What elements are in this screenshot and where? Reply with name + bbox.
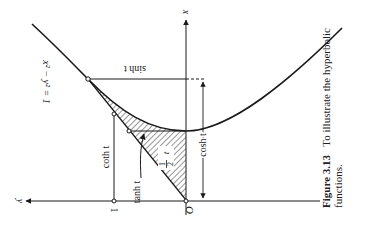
origin-point: [184, 199, 188, 203]
figure-caption: Figure 3.13 To illustrate the hyperbolic…: [320, 28, 344, 208]
coth-label: coth t: [100, 146, 111, 169]
sinh-label: sinh t: [124, 64, 146, 75]
origin-label: O: [184, 206, 196, 214]
hyperbolic-functions-diagram: x y O 1 x² − y² = 1 sinh t coth t tanh t…: [0, 0, 373, 236]
half-t-area-label: 1 2 t: [158, 146, 175, 170]
caption-figure-number: Figure 3.13: [320, 155, 332, 208]
svg-text:2: 2: [166, 162, 175, 166]
y-axis-label: y: [15, 198, 26, 204]
cosh-label: cosh t: [197, 133, 208, 157]
hyperbola-equation-label: x² − y² = 1: [41, 59, 52, 103]
hyperbola-curve: [32, 24, 342, 131]
tanh-label: tanh t: [131, 181, 142, 204]
x-axis-label: x: [181, 9, 192, 15]
coth-point: [112, 112, 116, 116]
unit-point: [112, 199, 116, 203]
unit-label: 1: [109, 208, 120, 213]
caption-text-continued: functions.: [332, 164, 344, 208]
hyperbola-point: [86, 77, 90, 81]
tanh-point: [127, 129, 131, 133]
caption-text: To illustrate the hyperbolic: [320, 28, 332, 147]
